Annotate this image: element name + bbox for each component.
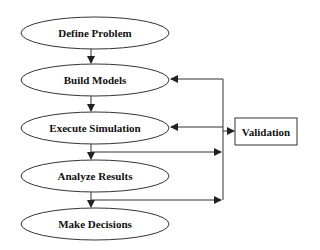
node-build-models: Build Models [21,64,169,96]
node-make-decisions: Make Decisions [21,208,169,240]
node-execute-simulation: Execute Simulation [21,112,169,144]
node-define-problem: Define Problem [21,17,169,49]
node-validation: Validation [235,118,297,145]
node-analyze-results: Analyze Results [21,160,169,192]
